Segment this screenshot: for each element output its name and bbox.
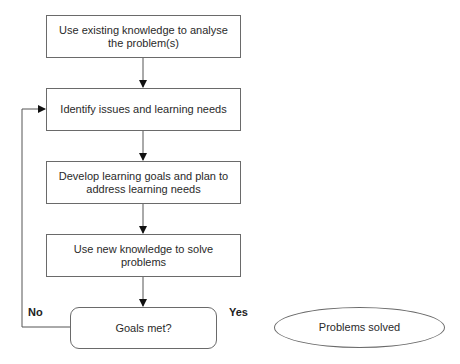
node-text: Develop learning goals and plan to addre… [55,170,232,196]
arrow-no-loop [22,109,70,327]
node-text: Use new knowledge to solve problems [55,243,232,269]
node-text: Use existing knowledge to analyse the pr… [55,24,232,50]
node-develop-goals: Develop learning goals and plan to addre… [46,161,241,204]
label-yes: Yes [229,306,248,318]
node-analyse-problem: Use existing knowledge to analyse the pr… [46,15,241,58]
node-goals-met-decision: Goals met? [70,307,217,349]
node-text: Identify issues and learning needs [60,103,226,116]
node-identify-issues: Identify issues and learning needs [46,88,241,131]
node-text: Problems solved [319,321,400,334]
node-text: Goals met? [115,322,171,335]
label-no: No [28,306,43,318]
node-use-new-knowledge: Use new knowledge to solve problems [46,234,241,277]
node-problems-solved: Problems solved [274,307,445,348]
